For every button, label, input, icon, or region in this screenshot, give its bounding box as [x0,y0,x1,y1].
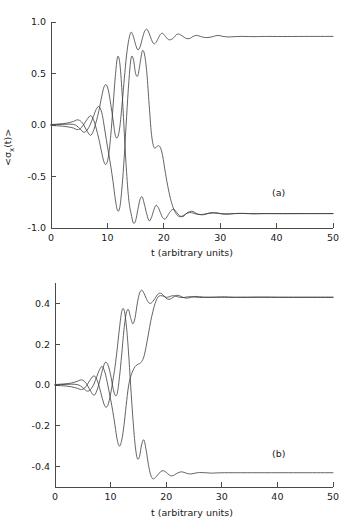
y-tick-label: -1.0 [27,222,46,233]
x-tick-label: 10 [105,491,117,502]
x-tick-label: 30 [214,232,226,243]
x-tick-label: 50 [327,232,339,243]
x-tick-label: 20 [158,232,170,243]
curve-trajectory-3-late-up [55,296,333,447]
panel-a-tick-labels: 01020304050-1.0-0.50.00.51.0 [27,16,339,243]
panel-b-xaxis-title: t (arbitrary units) [151,507,233,518]
x-tick-label: 10 [101,232,113,243]
x-tick-label: 40 [271,491,283,502]
axis-spines [51,22,333,228]
y-tick-label: -0.4 [31,461,50,472]
panel-b-curves [55,290,333,479]
x-tick-label: 30 [216,491,228,502]
figure-root: <σx(t)> 01020304050-1.0-0.50.00.51.0 t (… [0,0,345,525]
panel-b: x(t) 01020304050-0.4-0.20.00.20.4 t (arb… [0,265,345,525]
panel-a: <σx(t)> 01020304050-1.0-0.50.00.51.0 t (… [0,0,345,265]
y-tick-label: -0.2 [31,420,50,431]
panel-a-curves [51,29,333,223]
panel-b-tag: (b) [272,448,285,459]
y-tick-label: 1.0 [31,16,46,27]
y-tick-label: 0.4 [35,298,50,309]
panel-a-ylabel: <σx(t)> [2,160,39,180]
curve-trajectory-2-down [55,308,333,479]
x-tick-label: 40 [271,232,283,243]
panel-a-axes [51,22,333,228]
curve-trajectory-3-late-down [51,50,333,216]
curve-trajectory-1-up [51,29,333,138]
x-tick-label: 0 [52,491,58,502]
panel-a-tag: (a) [272,187,285,198]
panel-a-plot: 01020304050-1.0-0.50.00.51.0 t (arbitrar… [0,0,345,265]
x-tick-label: 20 [160,491,172,502]
x-tick-label: 0 [48,232,54,243]
panel-b-plot: 01020304050-0.4-0.20.00.20.4 t (arbitrar… [0,265,345,525]
y-tick-label: 0.2 [35,339,50,350]
y-tick-label: 0.0 [31,119,46,130]
panel-b-tick-labels: 01020304050-0.4-0.20.00.20.4 [31,298,339,502]
y-tick-label: 0.5 [31,68,46,79]
panel-a-xaxis-title: t (arbitrary units) [151,247,233,258]
x-tick-label: 50 [327,491,339,502]
y-tick-label: 0.0 [35,379,50,390]
axis-spines [55,283,333,487]
curve-trajectory-2-down [51,56,333,223]
panel-b-axes [55,283,333,487]
